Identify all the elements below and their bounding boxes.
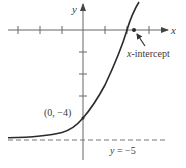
asymptote-label: y = −5 <box>109 145 136 156</box>
x-intercept-label: x-intercept <box>126 48 170 59</box>
y-intercept-label: (0, −4) <box>44 107 71 119</box>
curve-path <box>8 2 139 138</box>
x-intercept-arrow <box>137 34 145 46</box>
y-intercept-point <box>82 117 85 120</box>
x-intercept-label-rest: -intercept <box>131 48 170 59</box>
asymptote-label-rest: = −5 <box>114 145 135 156</box>
x-axis <box>8 26 168 34</box>
x-intercept-point <box>132 28 136 32</box>
x-axis-label: x <box>170 24 176 36</box>
y-axis-label: y <box>71 3 77 15</box>
exponential-graph: y x (0, −4) x-intercept y = −5 <box>0 0 186 168</box>
y-axis <box>79 4 87 160</box>
